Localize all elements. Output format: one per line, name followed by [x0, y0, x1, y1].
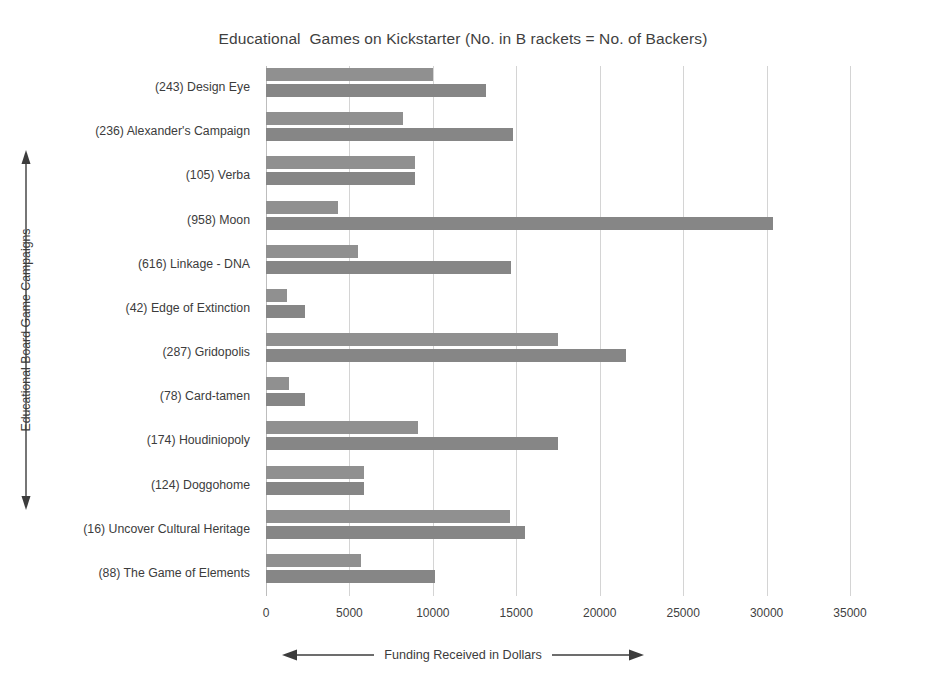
bar-row	[266, 154, 850, 198]
bar-goal	[266, 289, 287, 302]
bar-row	[266, 243, 850, 287]
bar-pledged	[266, 261, 511, 274]
x-tick-label: 15000	[500, 606, 533, 620]
bar-goal	[266, 201, 338, 214]
bar-pledged	[266, 305, 305, 318]
x-axis-title: Funding Received in Dollars	[384, 648, 542, 662]
chart-container: Educational Games on Kickstarter (No. in…	[0, 0, 926, 687]
y-tick-label: (236) Alexander's Campaign	[0, 124, 250, 138]
x-axis-label-group: Funding Received in Dollars	[0, 640, 926, 670]
bar-goal	[266, 156, 415, 169]
bar-pledged	[266, 526, 525, 539]
x-tick-label: 30000	[750, 606, 783, 620]
x-tick-label: 10000	[416, 606, 449, 620]
bar-row	[266, 464, 850, 508]
bar-row	[266, 508, 850, 552]
x-axis-tick-labels: 05000100001500020000250003000035000	[0, 606, 926, 626]
x-tick-label: 5000	[336, 606, 363, 620]
x-tick-label: 0	[263, 606, 270, 620]
y-tick-label: (105) Verba	[0, 168, 250, 182]
bar-row	[266, 110, 850, 154]
bar-row	[266, 552, 850, 596]
plot-area	[266, 66, 850, 596]
bar-row	[266, 199, 850, 243]
bar-row	[266, 287, 850, 331]
y-tick-label: (958) Moon	[0, 213, 250, 227]
x-tick-label: 35000	[833, 606, 866, 620]
bar-goal	[266, 377, 289, 390]
chart-title: Educational Games on Kickstarter (No. in…	[0, 30, 926, 48]
gridline-35000	[850, 66, 851, 596]
bar-pledged	[266, 349, 626, 362]
x-axis-left-arrow-icon	[282, 648, 374, 662]
bar-goal	[266, 68, 433, 81]
y-axis-tick-labels: (243) Design Eye(236) Alexander's Campai…	[0, 66, 258, 596]
y-tick-label: (174) Houdiniopoly	[0, 433, 250, 447]
bar-pledged	[266, 128, 513, 141]
bar-pledged	[266, 437, 558, 450]
x-tick-label: 20000	[583, 606, 616, 620]
bar-goal	[266, 333, 558, 346]
y-tick-label: (88) The Game of Elements	[0, 566, 250, 580]
bar-pledged	[266, 570, 435, 583]
bar-row	[266, 66, 850, 110]
bar-pledged	[266, 84, 486, 97]
bar-goal	[266, 554, 361, 567]
bar-goal	[266, 421, 418, 434]
bar-row	[266, 331, 850, 375]
bar-pledged	[266, 217, 773, 230]
bar-row	[266, 375, 850, 419]
bar-pledged	[266, 172, 415, 185]
bar-goal	[266, 510, 510, 523]
bar-rows	[266, 66, 850, 596]
bar-row	[266, 419, 850, 463]
y-tick-label: (42) Edge of Extinction	[0, 301, 250, 315]
y-tick-label: (124) Doggohome	[0, 478, 250, 492]
bar-pledged	[266, 482, 364, 495]
bar-goal	[266, 466, 364, 479]
y-tick-label: (78) Card-tamen	[0, 389, 250, 403]
x-axis-right-arrow-icon	[552, 648, 644, 662]
y-tick-label: (243) Design Eye	[0, 80, 250, 94]
bar-goal	[266, 112, 403, 125]
x-tick-label: 25000	[666, 606, 699, 620]
y-tick-label: (287) Gridopolis	[0, 345, 250, 359]
bar-goal	[266, 245, 358, 258]
y-tick-label: (16) Uncover Cultural Heritage	[0, 522, 250, 536]
y-tick-label: (616) Linkage - DNA	[0, 257, 250, 271]
bar-pledged	[266, 393, 305, 406]
